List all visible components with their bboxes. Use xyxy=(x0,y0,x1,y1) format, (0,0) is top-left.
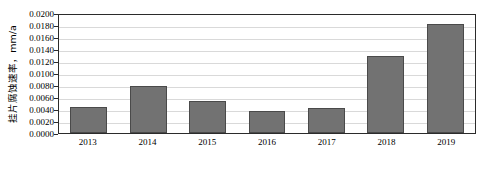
y-axis-title-text: 挂片腐蚀速率，mm/a xyxy=(5,25,19,123)
x-axis-tick-label: 2014 xyxy=(118,137,178,153)
bar-slot xyxy=(118,15,177,133)
x-axis-tick-label: 2017 xyxy=(297,137,357,153)
y-axis-tick-label: 0.0040 xyxy=(29,106,54,115)
bar-slot xyxy=(237,15,296,133)
bar-slot xyxy=(356,15,415,133)
bar-slot xyxy=(178,15,237,133)
y-axis-tick-labels: 0.02000.01800.01600.01400.01200.01000.00… xyxy=(18,8,56,134)
x-axis-tick-label: 2019 xyxy=(416,137,476,153)
bar-series xyxy=(59,15,475,133)
bar[interactable] xyxy=(130,86,167,133)
x-axis-tick-labels: 2013201420152016201720182019 xyxy=(58,137,476,153)
y-axis-tick-label: 0.0100 xyxy=(29,70,54,79)
y-axis-tick-label: 0.0120 xyxy=(29,58,54,67)
bar-slot xyxy=(297,15,356,133)
y-axis-tick-label: 0.0200 xyxy=(29,10,54,19)
bar[interactable] xyxy=(367,56,404,133)
bar[interactable] xyxy=(189,101,226,133)
y-axis-tick-label: 0.0180 xyxy=(29,22,54,31)
y-axis-tick-mark xyxy=(54,134,58,135)
y-axis-tick-label: 0.0080 xyxy=(29,82,54,91)
x-axis-tick-label: 2015 xyxy=(177,137,237,153)
y-axis-tick-label: 0.0160 xyxy=(29,34,54,43)
y-axis-tick-label: 0.0000 xyxy=(29,130,54,139)
bar[interactable] xyxy=(308,108,345,133)
bar[interactable] xyxy=(249,111,286,133)
bar[interactable] xyxy=(70,107,107,133)
y-axis-tick-label: 0.0060 xyxy=(29,94,54,103)
x-axis-tick-label: 2018 xyxy=(357,137,417,153)
bar[interactable] xyxy=(427,24,464,133)
y-axis-tick-label: 0.0020 xyxy=(29,118,54,127)
y-axis-tick-label: 0.0140 xyxy=(29,46,54,55)
plot-area xyxy=(58,14,476,134)
bar-chart-figure: 挂片腐蚀速率，mm/a 0.02000.01800.01600.01400.01… xyxy=(0,0,484,171)
x-axis-tick-label: 2013 xyxy=(58,137,118,153)
bar-slot xyxy=(59,15,118,133)
bar-slot xyxy=(416,15,475,133)
x-axis-tick-label: 2016 xyxy=(237,137,297,153)
